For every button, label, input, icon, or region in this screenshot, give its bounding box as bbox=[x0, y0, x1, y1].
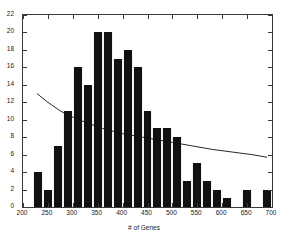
y-axis-tick-label: 12 bbox=[0, 98, 14, 105]
y-axis-tick-label: 18 bbox=[0, 46, 14, 53]
y-axis-tick-label: 2 bbox=[0, 186, 14, 193]
y-axis-tick-label: 8 bbox=[0, 133, 14, 140]
y-axis-tick-label: 4 bbox=[0, 168, 14, 175]
trend-curve bbox=[23, 15, 272, 207]
y-axis-tick bbox=[23, 207, 27, 208]
y-axis-tick bbox=[268, 207, 272, 208]
y-axis-tick-label: 10 bbox=[0, 116, 14, 123]
y-axis-tick-label: 22 bbox=[0, 11, 14, 18]
x-axis-tick-label: 700 bbox=[256, 210, 286, 217]
y-axis-tick-label: 0 bbox=[0, 203, 14, 210]
y-axis-tick-label: 20 bbox=[0, 28, 14, 35]
trend-curve-path bbox=[37, 94, 267, 158]
y-axis-tick-label: 14 bbox=[0, 81, 14, 88]
x-axis-tick bbox=[272, 203, 273, 207]
y-axis-tick-label: 6 bbox=[0, 151, 14, 158]
x-axis-tick bbox=[272, 15, 273, 19]
figure: 0246810121416182022200250300350400450500… bbox=[0, 0, 288, 238]
y-axis-tick-label: 16 bbox=[0, 63, 14, 70]
trend-curve-layer bbox=[23, 15, 272, 207]
plot-area bbox=[22, 14, 273, 208]
x-axis-title: # of Genes bbox=[0, 224, 288, 231]
